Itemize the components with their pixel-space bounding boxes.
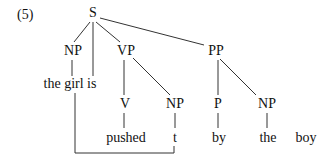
- node-np-subject: NP: [64, 43, 82, 59]
- branch-vp-np: [133, 58, 170, 95]
- leaf-pushed: pushed: [106, 130, 146, 146]
- branch-s-vp: [96, 22, 120, 42]
- node-np-pp: NP: [258, 96, 276, 112]
- node-p: P: [214, 96, 222, 112]
- node-pp: PP: [208, 43, 224, 59]
- leaf-the: the: [259, 130, 276, 146]
- branch-pp-np: [220, 59, 256, 95]
- branch-s-pp: [100, 18, 204, 45]
- leaf-trace-t: t: [173, 130, 177, 146]
- node-np-object: NP: [166, 96, 184, 112]
- branch-s-np: [74, 22, 90, 42]
- leaf-the-girl-is: the girl is: [44, 76, 97, 92]
- leaf-by: by: [212, 130, 226, 146]
- node-vp: VP: [117, 43, 135, 59]
- node-s: S: [89, 5, 97, 21]
- node-v: V: [120, 96, 130, 112]
- leaf-boy: boy: [296, 130, 317, 146]
